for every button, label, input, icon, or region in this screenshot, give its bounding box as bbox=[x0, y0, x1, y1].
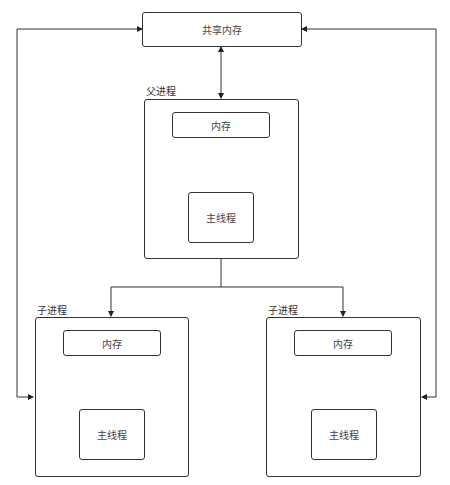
child-memory-label-left: 内存 bbox=[102, 336, 122, 351]
parent-main-thread-label: 主线程 bbox=[206, 210, 236, 225]
child-main-thread-label-left: 主线程 bbox=[97, 427, 127, 442]
child-memory-label-right: 内存 bbox=[333, 336, 353, 351]
child-process-title-left: 子进程 bbox=[37, 302, 67, 317]
shared-memory-box: 共享内存 bbox=[142, 12, 302, 47]
parent-process-title: 父进程 bbox=[146, 83, 176, 98]
child-memory-box-right: 内存 bbox=[294, 330, 392, 356]
shared-memory-label: 共享内存 bbox=[202, 22, 242, 37]
child-main-thread-box-right: 主线程 bbox=[311, 409, 377, 460]
parent-memory-box: 内存 bbox=[172, 112, 270, 138]
child-memory-box-left: 内存 bbox=[63, 330, 161, 356]
parent-main-thread-box: 主线程 bbox=[188, 192, 254, 243]
child-process-title-right: 子进程 bbox=[268, 302, 298, 317]
fork-left-arrow bbox=[111, 287, 221, 316]
parent-memory-label: 内存 bbox=[211, 118, 231, 133]
child-main-thread-box-left: 主线程 bbox=[79, 409, 145, 460]
child-main-thread-label-right: 主线程 bbox=[329, 427, 359, 442]
